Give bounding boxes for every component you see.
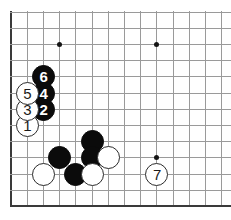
stone-white[interactable]	[81, 163, 104, 186]
stone-move-number: 7	[153, 167, 161, 182]
stone-move-number: 5	[23, 86, 31, 101]
stone-white[interactable]	[32, 163, 55, 186]
stone-white-move-7[interactable]: 7	[145, 163, 168, 186]
go-board-diagram: 1234567	[0, 0, 231, 220]
stone-layer: 1234567	[0, 0, 231, 220]
stone-move-number: 6	[39, 69, 47, 84]
